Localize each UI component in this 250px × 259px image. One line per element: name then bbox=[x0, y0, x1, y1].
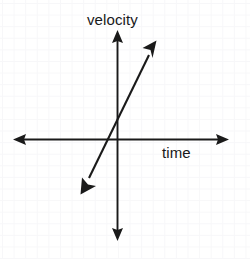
y-axis bbox=[112, 30, 123, 241]
y-axis-label: velocity bbox=[87, 12, 138, 28]
x-axis-label: time bbox=[162, 145, 191, 161]
x-axis bbox=[13, 134, 229, 145]
velocity-time-graph: velocity time bbox=[0, 0, 250, 259]
graph-canvas bbox=[0, 0, 250, 259]
velocity-line-segment bbox=[89, 55, 149, 178]
velocity-line-series bbox=[81, 41, 157, 195]
velocity-line-lower-arrowhead bbox=[81, 178, 97, 195]
